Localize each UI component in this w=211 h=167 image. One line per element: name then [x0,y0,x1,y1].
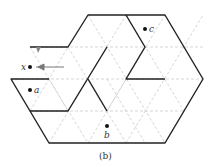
point-c: c [143,24,154,34]
caption: (b) [99,151,112,161]
arrow [36,64,64,70]
svg-text:c: c [149,24,154,34]
svg-text:b: b [104,130,110,140]
svg-text:a: a [34,85,39,95]
svg-text:x: x [21,62,26,72]
point-a: a [28,85,39,95]
tiling-diagram: x a b c (b) [0,0,211,167]
point-x: x [21,62,32,72]
flag-marker-icon [36,47,41,53]
point-b: b [104,124,110,140]
